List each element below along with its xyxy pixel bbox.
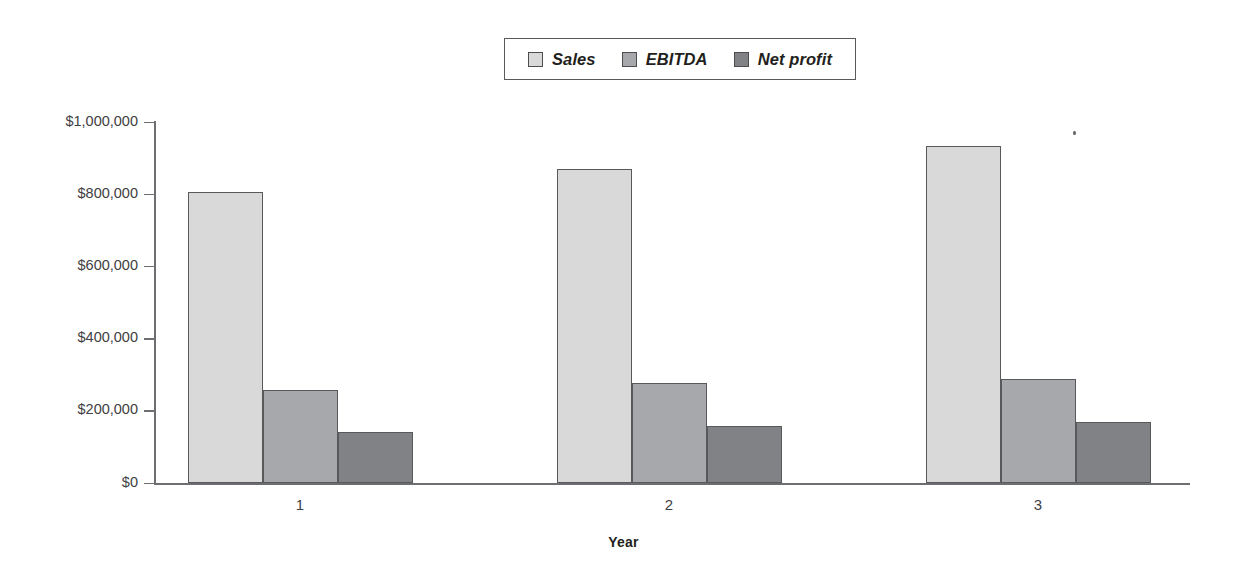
x-axis-category-3: 3	[978, 496, 1098, 513]
bar-net-profit-year-1	[338, 432, 413, 483]
y-axis-tick	[144, 122, 155, 124]
bar-net-profit-year-3	[1076, 422, 1151, 483]
bar-ebitda-year-2	[632, 383, 707, 483]
bar-net-profit-year-2	[707, 426, 782, 483]
bar-ebitda-year-3	[1001, 379, 1076, 483]
x-axis-category-2: 2	[609, 496, 729, 513]
bar-sales-year-3	[926, 146, 1001, 483]
y-axis-label-1000000: $1,000,000	[0, 113, 138, 131]
y-axis-tick	[144, 483, 155, 485]
x-axis-line	[154, 483, 1190, 485]
y-axis-tick	[144, 266, 155, 268]
plot-area: $1,000,000 $800,000 $600,000 $400,000 $2…	[0, 0, 1247, 580]
y-axis-label-400000: $400,000	[0, 329, 138, 347]
y-axis-label-0: $0	[0, 474, 138, 492]
y-axis-label-200000: $200,000	[0, 401, 138, 419]
y-axis-tick	[144, 338, 155, 340]
x-axis-title: Year	[0, 534, 1247, 550]
bar-ebitda-year-1	[263, 390, 338, 483]
y-axis-label-800000: $800,000	[0, 185, 138, 203]
bar-sales-year-2	[557, 169, 632, 483]
scan-speck	[1073, 131, 1076, 135]
bar-sales-year-1	[188, 192, 263, 483]
y-axis-tick	[144, 194, 155, 196]
y-axis-line	[154, 121, 156, 484]
y-axis-tick	[144, 410, 155, 412]
bar-chart-figure: Sales EBITDA Net profit $1,000,000 $800,…	[0, 0, 1247, 580]
x-axis-category-1: 1	[240, 496, 360, 513]
y-axis-label-600000: $600,000	[0, 257, 138, 275]
